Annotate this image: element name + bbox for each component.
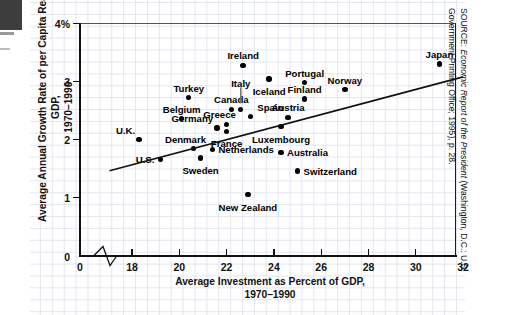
data-point	[245, 192, 250, 197]
data-point	[158, 157, 163, 162]
chart-page: Average Annual Growth Rate of per Capita…	[0, 0, 518, 315]
x-tick-mark	[321, 249, 322, 256]
x-tick-mark	[273, 249, 274, 256]
point-label: Turkey	[173, 84, 204, 94]
point-label: Luxembourg	[252, 135, 310, 145]
x-axis-title-line1: Average Investment as Percent of GDP,	[120, 276, 420, 289]
data-point	[240, 63, 245, 68]
data-point	[136, 137, 141, 142]
data-point	[285, 115, 290, 120]
data-point	[302, 96, 307, 101]
y-tick-label: 2	[0, 135, 79, 146]
point-label: Denmark	[165, 135, 206, 145]
data-point	[342, 87, 347, 92]
data-point	[266, 76, 271, 81]
x-tick-label: 24	[259, 262, 289, 273]
point-label: Norway	[328, 76, 363, 86]
point-label: Portugal	[285, 69, 324, 79]
source-prefix: SOURCE:	[459, 8, 469, 50]
point-label: Finland	[288, 85, 322, 95]
point-label: U.K.	[116, 126, 135, 136]
x-axis-title-line2: 1970–1990	[120, 289, 420, 302]
point-label: Canada	[214, 95, 249, 105]
data-point	[295, 168, 300, 173]
point-label: Switzerland	[304, 167, 357, 177]
x-tick-label: 18	[117, 262, 147, 273]
x-tick-mark	[179, 249, 180, 256]
y-tick-label: 1	[0, 193, 79, 204]
data-point	[214, 125, 219, 130]
x-axis-line	[79, 255, 457, 257]
data-point	[278, 150, 283, 155]
point-label: France	[211, 139, 242, 149]
data-point	[437, 61, 442, 66]
data-point	[198, 155, 203, 160]
point-label: Austria	[272, 103, 305, 113]
x-tick-mark	[226, 249, 227, 256]
source-title: Economic Report of the President	[459, 50, 469, 179]
point-label: Sweden	[182, 166, 218, 176]
x-tick-label: 20	[164, 262, 194, 273]
x-tick-label: 30	[401, 262, 431, 273]
point-label: Greece	[203, 110, 236, 120]
point-label: Iceland	[253, 87, 286, 97]
x-tick-mark	[368, 249, 369, 256]
y-tick-label: 3	[0, 77, 79, 88]
point-label: Italy	[231, 79, 250, 89]
y-tick-label: 0	[0, 252, 79, 263]
x-tick-mark	[415, 249, 416, 256]
source-note: SOURCE: Economic Report of the President…	[445, 8, 470, 308]
point-label: U.S.	[136, 155, 155, 165]
page-edge-artifact-secondary	[0, 32, 14, 35]
point-label: Ireland	[227, 51, 258, 61]
y-tick-label: 4%	[0, 19, 79, 30]
point-label: Australia	[287, 148, 328, 158]
x-tick-label: 22	[212, 262, 242, 273]
point-label: New Zealand	[219, 203, 278, 213]
x-tick-label: 0	[65, 262, 95, 273]
x-tick-mark	[131, 249, 132, 256]
page-edge-artifact-tertiary	[0, 48, 10, 50]
data-point	[248, 114, 253, 119]
x-axis-title: Average Investment as Percent of GDP, 19…	[120, 276, 420, 302]
x-tick-label: 28	[354, 262, 384, 273]
x-tick-label: 26	[306, 262, 336, 273]
